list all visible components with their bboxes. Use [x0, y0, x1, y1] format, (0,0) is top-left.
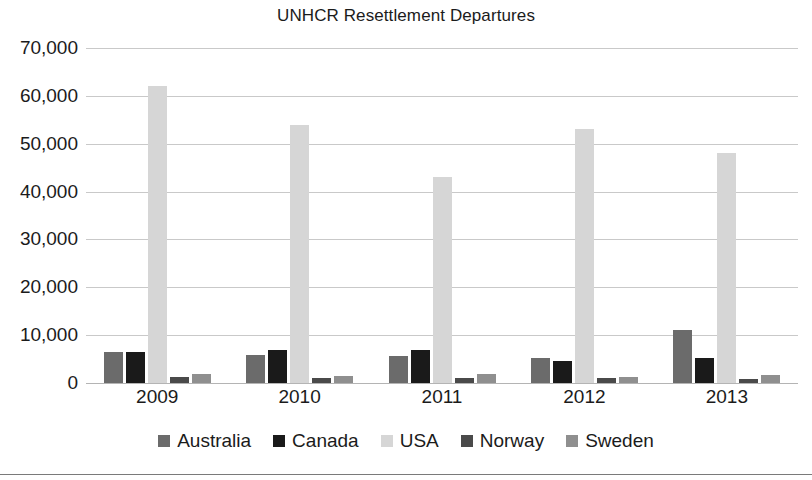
y-axis-tick-label: 40,000: [0, 181, 78, 203]
bar: [717, 153, 736, 383]
bar: [761, 375, 780, 383]
y-axis-tick-label: 0: [0, 372, 78, 394]
bar: [126, 352, 145, 383]
bar-group: [228, 48, 370, 383]
legend-swatch-icon: [461, 435, 473, 447]
bar: [148, 86, 167, 383]
bar-group: [513, 48, 655, 383]
legend-item[interactable]: Norway: [461, 430, 544, 452]
legend-item[interactable]: Australia: [158, 430, 251, 452]
legend-swatch-icon: [381, 435, 393, 447]
legend-label: Sweden: [585, 430, 654, 452]
y-axis-tick-label: 10,000: [0, 324, 78, 346]
plot-area: [86, 48, 798, 383]
bar: [192, 374, 211, 383]
legend-item[interactable]: USA: [381, 430, 439, 452]
y-axis-tick-label: 50,000: [0, 133, 78, 155]
legend-label: Canada: [292, 430, 359, 452]
legend-label: Norway: [480, 430, 544, 452]
bar: [553, 361, 572, 383]
legend-swatch-icon: [273, 435, 285, 447]
legend-swatch-icon: [566, 435, 578, 447]
x-axis-labels: 20092010201120122013: [86, 386, 798, 408]
y-axis-tick-label: 60,000: [0, 85, 78, 107]
y-axis-tick-label: 30,000: [0, 228, 78, 250]
bar-group: [86, 48, 228, 383]
bar-chart: UNHCR Resettlement Departures 70,00060,0…: [0, 0, 812, 480]
y-axis-tick-label: 70,000: [0, 37, 78, 59]
legend-label: Australia: [177, 430, 251, 452]
bar: [433, 177, 452, 383]
bar: [104, 352, 123, 383]
bar: [455, 378, 474, 383]
legend-item[interactable]: Canada: [273, 430, 359, 452]
bar: [312, 378, 331, 383]
legend-item[interactable]: Sweden: [566, 430, 654, 452]
x-axis-tick-label: 2012: [513, 386, 655, 408]
x-axis-tick-label: 2009: [86, 386, 228, 408]
bar: [619, 377, 638, 383]
bar: [597, 378, 616, 383]
bar: [739, 379, 758, 383]
bar: [673, 330, 692, 383]
legend-swatch-icon: [158, 435, 170, 447]
bar: [575, 129, 594, 383]
bottom-divider: [0, 474, 812, 475]
bar-group: [371, 48, 513, 383]
bar: [334, 376, 353, 383]
bar-groups: [86, 48, 798, 383]
x-axis-tick-label: 2013: [656, 386, 798, 408]
bar: [531, 358, 550, 383]
bar: [246, 355, 265, 383]
bar: [695, 358, 714, 383]
bar: [170, 377, 189, 383]
chart-legend: AustraliaCanadaUSANorwaySweden: [0, 430, 812, 452]
chart-title: UNHCR Resettlement Departures: [0, 6, 812, 26]
bar: [477, 374, 496, 383]
y-axis-tick-label: 20,000: [0, 276, 78, 298]
legend-label: USA: [400, 430, 439, 452]
bar: [290, 125, 309, 383]
bar-group: [656, 48, 798, 383]
bar: [389, 356, 408, 383]
bar: [411, 350, 430, 383]
gridline: [86, 383, 798, 384]
x-axis-tick-label: 2010: [228, 386, 370, 408]
x-axis-tick-label: 2011: [371, 386, 513, 408]
bar: [268, 350, 287, 383]
